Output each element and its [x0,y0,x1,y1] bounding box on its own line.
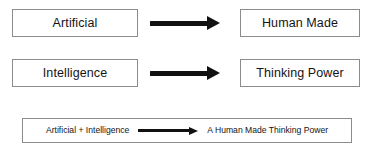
arrow-head [207,16,220,30]
summary-source-label: Artificial + Intelligence [46,126,129,135]
right-arrow-icon [138,126,198,136]
summary-content: Artificial + Intelligence A Human Made T… [31,126,343,136]
arrow-shaft [150,71,208,76]
box-human-made-label: Human Made [262,17,338,30]
arrow-shaft [150,21,208,26]
box-artificial-label: Artificial [53,17,98,30]
right-arrow-icon [150,16,222,30]
box-thinking-power-label: Thinking Power [256,67,344,80]
box-thinking-power: Thinking Power [240,59,360,87]
arrow-shaft [138,129,190,131]
diagram-canvas: Artificial Human Made Intelligence Think… [0,0,371,153]
box-artificial: Artificial [12,9,138,37]
box-intelligence: Intelligence [12,59,138,87]
right-arrow-icon [150,66,222,80]
box-intelligence-label: Intelligence [43,67,107,80]
arrow-head [189,127,198,135]
box-human-made: Human Made [240,9,360,37]
box-summary: Artificial + Intelligence A Human Made T… [22,118,352,143]
summary-target-label: A Human Made Thinking Power [207,126,328,135]
arrow-head [207,66,220,80]
